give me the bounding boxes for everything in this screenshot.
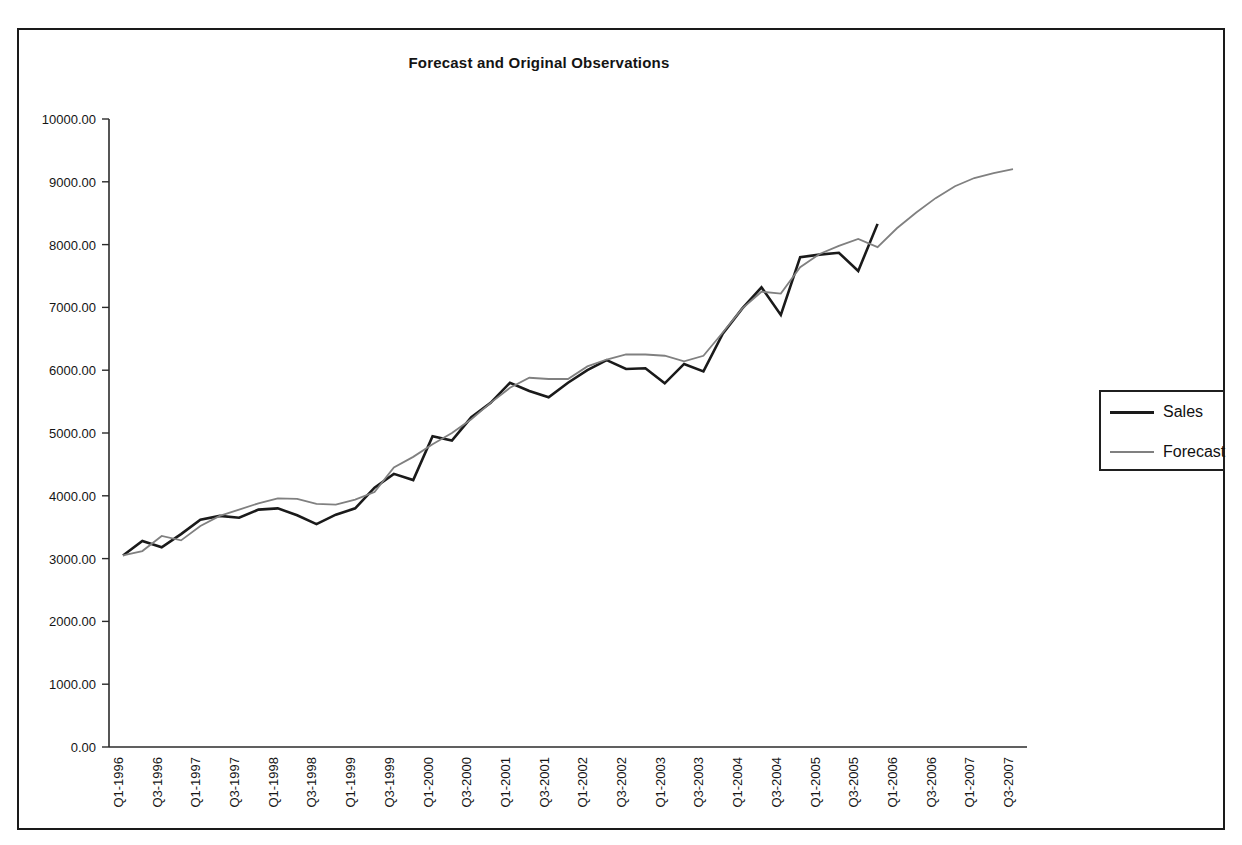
x-tick-label: Q3-2004 <box>769 757 784 808</box>
x-tick-label: Q1-2006 <box>885 757 900 808</box>
y-tick-label: 8000.00 <box>49 238 96 253</box>
legend-label: Forecast <box>1163 443 1225 461</box>
x-tick-label: Q1-1999 <box>343 757 358 808</box>
x-tick-label: Q1-2001 <box>498 757 513 808</box>
x-tick-label: Q3-2007 <box>1001 757 1016 808</box>
legend-swatch-sales <box>1110 411 1154 414</box>
chart-frame: Forecast and Original Observations 0.001… <box>17 28 1225 830</box>
y-tick-label: 4000.00 <box>49 489 96 504</box>
x-tick-label: Q3-1997 <box>227 757 242 808</box>
x-tick-label: Q3-2003 <box>691 757 706 808</box>
x-axis: Q1-1996Q3-1996Q1-1997Q3-1997Q1-1998Q3-19… <box>109 747 1027 808</box>
x-tick-label: Q1-2007 <box>962 757 977 808</box>
x-tick-label: Q3-2001 <box>537 757 552 808</box>
series-line-forecast <box>123 169 1013 555</box>
x-tick-label: Q3-2002 <box>614 757 629 808</box>
y-tick-label: 0.00 <box>71 740 96 755</box>
x-tick-label: Q3-1998 <box>304 757 319 808</box>
x-tick-label: Q1-2000 <box>421 757 436 808</box>
y-tick-label: 2000.00 <box>49 614 96 629</box>
x-tick-label: Q1-2002 <box>575 757 590 808</box>
y-tick-label: 7000.00 <box>49 300 96 315</box>
chart-legend: SalesForecast <box>1099 390 1225 471</box>
x-tick-label: Q1-1997 <box>188 757 203 808</box>
x-tick-label: Q1-2003 <box>653 757 668 808</box>
x-tick-label: Q1-2005 <box>808 757 823 808</box>
x-tick-label: Q1-2004 <box>730 757 745 808</box>
y-tick-label: 9000.00 <box>49 175 96 190</box>
x-tick-label: Q3-2005 <box>846 757 861 808</box>
x-tick-label: Q3-1999 <box>382 757 397 808</box>
series-line-sales <box>123 224 878 556</box>
legend-label: Sales <box>1163 403 1203 421</box>
x-tick-label: Q1-1998 <box>266 757 281 808</box>
x-tick-label: Q3-1996 <box>150 757 165 808</box>
y-tick-label: 1000.00 <box>49 677 96 692</box>
chart-plot-area: 0.001000.002000.003000.004000.005000.006… <box>19 30 1225 830</box>
y-axis: 0.001000.002000.003000.004000.005000.006… <box>42 112 109 755</box>
x-tick-label: Q3-2000 <box>459 757 474 808</box>
y-tick-label: 5000.00 <box>49 426 96 441</box>
legend-swatch-forecast <box>1110 451 1154 453</box>
legend-item-forecast[interactable]: Forecast <box>1101 432 1223 472</box>
legend-item-sales[interactable]: Sales <box>1101 392 1223 432</box>
x-tick-label: Q1-1996 <box>111 757 126 808</box>
y-tick-label: 6000.00 <box>49 363 96 378</box>
y-tick-label: 10000.00 <box>42 112 96 127</box>
y-tick-label: 3000.00 <box>49 552 96 567</box>
x-tick-label: Q3-2006 <box>924 757 939 808</box>
data-series-group <box>123 169 1013 555</box>
